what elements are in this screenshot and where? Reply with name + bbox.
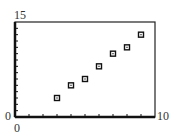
data-point-center <box>140 34 141 35</box>
data-point-center <box>70 85 71 86</box>
data-point-center <box>112 53 113 54</box>
plot-frame <box>15 22 155 117</box>
data-point-center <box>84 78 85 79</box>
data-point-center <box>126 47 127 48</box>
data-point-center <box>56 97 57 98</box>
scatter-plot <box>0 0 173 137</box>
data-point-center <box>98 66 99 67</box>
